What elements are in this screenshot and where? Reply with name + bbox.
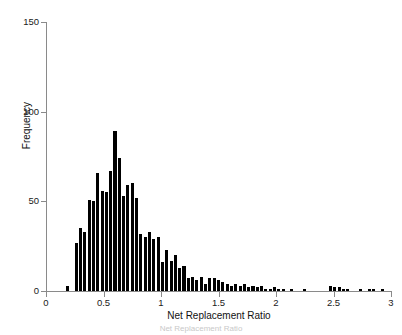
x-tick-label: 1.5: [212, 298, 225, 308]
histogram-bar: [144, 237, 147, 291]
histogram-bar: [126, 185, 129, 291]
x-tick-label: 3: [388, 298, 393, 308]
histogram-bar: [251, 286, 254, 291]
y-tick-label: 50: [28, 196, 39, 206]
histogram-bar: [83, 232, 86, 291]
x-axis-label: Net Replacement Ratio: [46, 310, 392, 321]
histogram-bar: [75, 243, 78, 291]
histogram-bar: [178, 268, 181, 291]
y-tick-label: 150: [23, 17, 39, 27]
histogram-bar: [208, 278, 211, 291]
histogram-bar: [247, 287, 250, 291]
histogram-bar: [157, 237, 160, 291]
histogram-bar: [191, 277, 194, 291]
histogram-bar: [346, 289, 349, 291]
histogram-bar: [213, 278, 216, 291]
histogram-bar: [105, 192, 108, 291]
histogram-bar: [79, 228, 82, 291]
histogram-bar: [109, 171, 112, 291]
histogram-bar: [221, 282, 224, 291]
x-tick-label: 1: [158, 298, 163, 308]
histogram-bar: [226, 284, 229, 291]
histogram-bar: [359, 289, 362, 291]
histogram-figure: 050100150 00.511.522.53 Frequency Net Re…: [0, 0, 402, 335]
histogram-bar: [101, 191, 104, 291]
histogram-bar: [88, 200, 91, 291]
x-tick-label: 0: [43, 298, 48, 308]
histogram-bar: [329, 286, 332, 291]
histogram-bar: [381, 289, 384, 291]
x-tick-label: 2: [273, 298, 278, 308]
histogram-bar: [96, 173, 99, 291]
histogram-bar: [204, 284, 207, 291]
histogram-bar: [290, 289, 293, 291]
histogram-bar: [260, 286, 263, 291]
y-axis-label: Frequency: [21, 66, 32, 186]
histogram-bar: [273, 287, 276, 291]
histogram-bar: [118, 158, 121, 291]
histogram-bar: [152, 239, 155, 291]
histogram-bar: [170, 261, 173, 291]
histogram-bar: [372, 289, 375, 291]
histogram-bar: [148, 232, 151, 291]
histogram-bar: [230, 286, 233, 291]
histogram-bar: [234, 284, 237, 291]
histogram-bar: [92, 201, 95, 291]
histogram-bar: [256, 287, 259, 291]
plot-area: [46, 22, 391, 291]
figure-caption: Net Replacement Ratio: [0, 324, 402, 333]
histogram-bar: [368, 289, 371, 291]
y-tick-label: 0: [34, 286, 39, 296]
histogram-bar: [277, 289, 280, 291]
histogram-bar: [174, 255, 177, 291]
histogram-bar: [139, 234, 142, 291]
histogram-bar: [282, 289, 285, 291]
histogram-bar: [182, 266, 185, 291]
x-tick-label: 2.5: [327, 298, 340, 308]
histogram-bar: [187, 278, 190, 291]
histogram-bar: [342, 289, 345, 291]
histogram-bar: [217, 280, 220, 291]
histogram-bar: [195, 280, 198, 291]
x-tick-label: 0.5: [97, 298, 110, 308]
histogram-bar: [131, 183, 134, 291]
histogram-bar: [264, 289, 267, 291]
histogram-bar: [165, 250, 168, 291]
histogram-bar: [113, 131, 116, 291]
histogram-bar: [269, 289, 272, 291]
histogram-bar: [243, 284, 246, 291]
histogram-bar: [333, 287, 336, 291]
histogram-bar: [200, 277, 203, 291]
histogram-bar: [338, 287, 341, 291]
histogram-bar: [66, 286, 69, 291]
histogram-bar: [303, 289, 306, 291]
histogram-bar: [161, 262, 164, 291]
histogram-bar: [135, 198, 138, 291]
histogram-bar: [122, 196, 125, 291]
histogram-bar: [239, 286, 242, 291]
